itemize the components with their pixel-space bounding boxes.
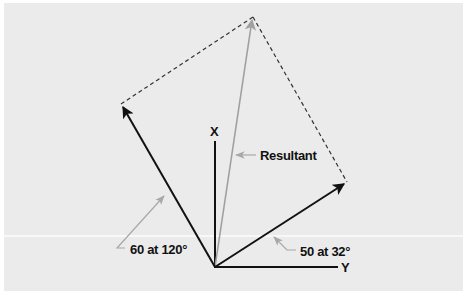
resultant-vector bbox=[215, 20, 252, 267]
dashed-side-left bbox=[121, 17, 253, 104]
y-axis-label: Y bbox=[341, 260, 350, 275]
x-axis-label: X bbox=[210, 124, 219, 139]
vector-50-label: 50 at 32° bbox=[300, 244, 350, 259]
vector-diagram: X Y Resultant 60 at 120° 50 at 32° bbox=[0, 0, 471, 296]
leader-60-at-120 bbox=[117, 196, 164, 248]
resultant-label: Resultant bbox=[260, 148, 318, 163]
leader-50-at-32 bbox=[274, 237, 296, 250]
vector-60-label: 60 at 120° bbox=[130, 242, 187, 257]
